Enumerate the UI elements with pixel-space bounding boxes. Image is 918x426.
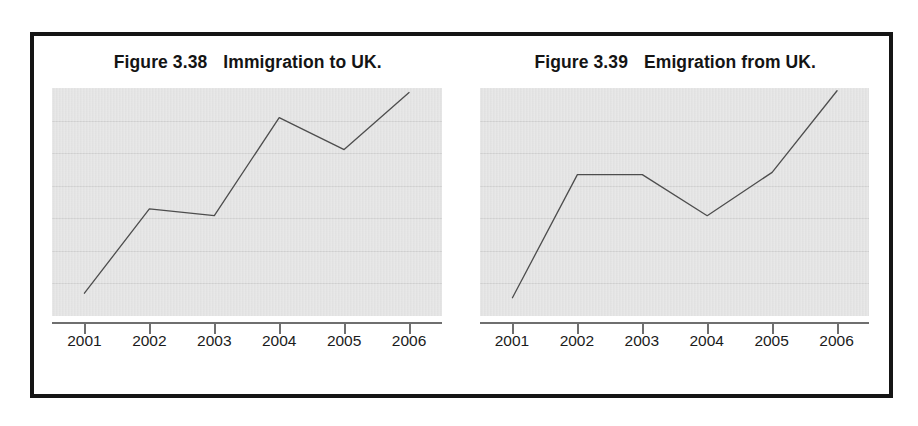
- x-axis-immigration: [52, 316, 442, 330]
- x-axis-label: 2005: [327, 332, 361, 350]
- series-line-emigration: [480, 88, 870, 316]
- figure-caption-title: Emigration from UK.: [644, 52, 816, 72]
- figure-border-frame: Figure 3.38Immigration to UK. 2001200220…: [30, 32, 893, 398]
- line-chart-emigration: 200120022003200420052006: [462, 88, 890, 376]
- figure-panel-immigration: Figure 3.38Immigration to UK. 2001200220…: [34, 36, 462, 394]
- figure-caption-title: Immigration to UK.: [223, 52, 381, 72]
- data-polyline: [84, 93, 409, 294]
- x-axis-label: 2005: [754, 332, 788, 350]
- figure-caption-number: Figure 3.38: [114, 52, 208, 72]
- x-axis-line: [480, 322, 870, 324]
- series-line-immigration: [52, 88, 442, 316]
- line-chart-immigration: 200120022003200420052006: [34, 88, 462, 376]
- x-axis-emigration: [480, 316, 870, 330]
- figure-panel-emigration: Figure 3.39Emigration from UK. 200120022…: [462, 36, 890, 394]
- data-polyline: [512, 91, 837, 298]
- x-axis-label: 2002: [132, 332, 166, 350]
- x-axis-label: 2006: [819, 332, 853, 350]
- x-axis-labels-emigration: 200120022003200420052006: [480, 332, 870, 358]
- x-axis-label: 2004: [689, 332, 723, 350]
- plot-area-emigration: [480, 88, 870, 316]
- figure-caption-number: Figure 3.39: [534, 52, 628, 72]
- scanned-figure-page: Figure 3.38Immigration to UK. 2001200220…: [0, 0, 918, 426]
- figure-caption-emigration: Figure 3.39Emigration from UK.: [462, 52, 890, 73]
- x-axis-label: 2001: [67, 332, 101, 350]
- x-axis-label: 2003: [625, 332, 659, 350]
- x-axis-line: [52, 322, 442, 324]
- x-axis-label: 2004: [262, 332, 296, 350]
- x-axis-label: 2002: [560, 332, 594, 350]
- figure-caption-immigration: Figure 3.38Immigration to UK.: [34, 52, 462, 73]
- plot-area-immigration: [52, 88, 442, 316]
- x-axis-label: 2003: [197, 332, 231, 350]
- figure-panel-row: Figure 3.38Immigration to UK. 2001200220…: [34, 36, 889, 394]
- x-axis-label: 2001: [495, 332, 529, 350]
- x-axis-labels-immigration: 200120022003200420052006: [52, 332, 442, 358]
- x-axis-label: 2006: [392, 332, 426, 350]
